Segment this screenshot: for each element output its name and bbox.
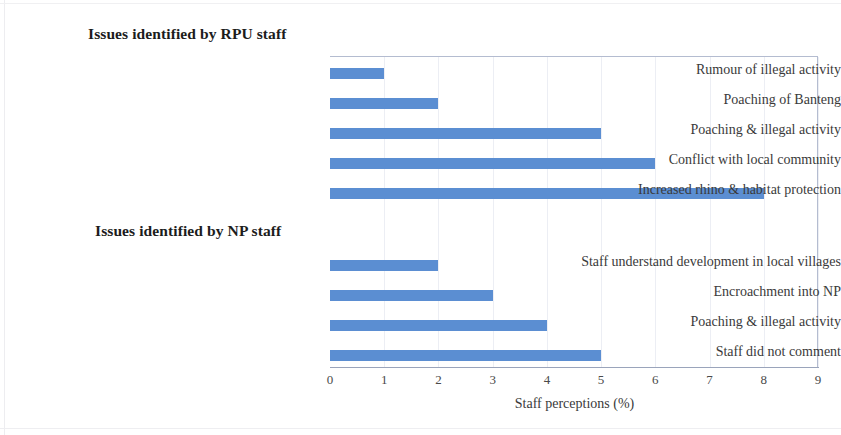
x-tick-label: 7 xyxy=(706,372,713,388)
category-label: Poaching of Banteng xyxy=(519,92,841,108)
category-label: Conflict with local community xyxy=(519,152,841,168)
category-label: Staff did not comment xyxy=(519,344,841,360)
group-heading-np: Issues identified by NP staff xyxy=(95,222,281,240)
bar xyxy=(330,68,384,79)
x-axis-title: Staff perceptions (%) xyxy=(330,396,819,412)
scan-artifact-top xyxy=(0,3,841,4)
scan-artifact-left xyxy=(4,0,5,435)
scan-artifact-bottom xyxy=(0,428,841,429)
chart-page: Issues identified by RPU staff Issues id… xyxy=(0,0,841,435)
x-tick-label: 8 xyxy=(761,372,768,388)
bar xyxy=(330,260,438,271)
category-label: Increased rhino & habitat protection xyxy=(519,182,841,198)
x-tick-label: 9 xyxy=(815,372,822,388)
category-label: Staff understand development in local vi… xyxy=(519,254,841,270)
bar xyxy=(330,290,493,301)
bar xyxy=(330,320,547,331)
x-tick-label: 6 xyxy=(652,372,659,388)
axis-baseline xyxy=(330,367,819,368)
category-label: Encroachment into NP xyxy=(519,284,841,300)
x-tick-label: 0 xyxy=(327,372,334,388)
category-label: Poaching & illegal activity xyxy=(519,122,841,138)
bar xyxy=(330,98,438,109)
x-tick-label: 2 xyxy=(435,372,442,388)
category-label: Poaching & illegal activity xyxy=(519,314,841,330)
x-tick-label: 3 xyxy=(489,372,496,388)
x-tick-label: 1 xyxy=(381,372,388,388)
x-tick-label: 5 xyxy=(598,372,605,388)
group-heading-rpu: Issues identified by RPU staff xyxy=(88,25,286,43)
x-tick-label: 4 xyxy=(544,372,551,388)
category-label: Rumour of illegal activity xyxy=(519,62,841,78)
